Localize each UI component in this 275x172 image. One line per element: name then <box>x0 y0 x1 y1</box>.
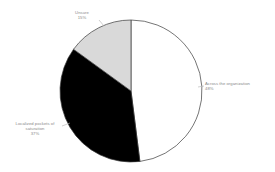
pie-chart-figure: Across the organization 48% Localized po… <box>0 0 275 172</box>
pie-label-localized-pockets-of-saturation: Localized pockets of saturation 37% <box>8 121 62 136</box>
pie-label-across-the-organization: Across the organization 48% <box>205 81 250 91</box>
pie-slice-across-the-organization[interactable] <box>131 20 202 161</box>
pie-label-unsure-value: 15% <box>62 15 102 20</box>
pie-label-localized-pockets-value: 37% <box>8 131 62 136</box>
pie-label-unsure: Unsure 15% <box>62 10 102 20</box>
leader-line-unsure <box>99 20 104 26</box>
pie-label-across-the-organization-value: 48% <box>205 86 250 91</box>
